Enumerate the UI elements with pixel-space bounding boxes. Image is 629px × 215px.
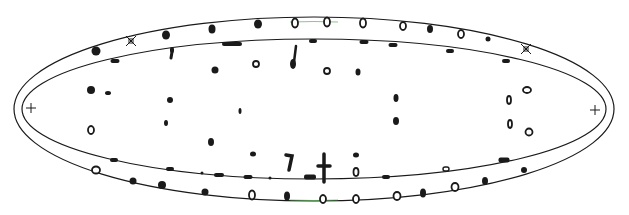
blob-marker xyxy=(508,120,512,128)
dot-marker xyxy=(92,167,100,174)
dot-marker xyxy=(202,189,209,196)
dot-marker xyxy=(486,37,491,42)
blob-marker xyxy=(164,120,168,126)
dash-marker xyxy=(443,167,449,171)
inner-ellipse xyxy=(22,39,606,179)
dash-marker xyxy=(111,59,120,63)
cross-icon xyxy=(521,44,531,54)
plus-icon xyxy=(26,103,36,113)
dot-marker xyxy=(254,20,262,29)
blob-marker xyxy=(250,152,256,157)
blob-marker xyxy=(167,97,173,103)
blob-marker xyxy=(354,168,359,176)
dash-marker xyxy=(201,172,204,175)
blob-marker xyxy=(212,67,219,74)
blob-marker xyxy=(393,117,399,125)
blob-marker xyxy=(239,108,242,114)
blob-marker xyxy=(356,69,361,76)
blob-marker xyxy=(253,61,259,67)
dash-marker xyxy=(502,59,510,63)
dot-marker xyxy=(482,177,488,185)
dash-marker xyxy=(222,42,242,46)
dot-marker xyxy=(360,19,366,28)
blob-marker xyxy=(208,138,214,146)
dash-marker xyxy=(389,43,398,47)
blob-marker xyxy=(353,153,359,158)
dash-marker xyxy=(446,49,454,53)
inner-ellipse-markers xyxy=(110,39,510,180)
dash-marker xyxy=(244,175,253,179)
ink-stroke xyxy=(318,154,330,182)
outer-ellipse xyxy=(14,17,614,201)
dot-marker xyxy=(209,25,216,34)
dash-marker xyxy=(499,158,510,163)
cross-icon xyxy=(126,36,136,46)
dot-marker xyxy=(420,189,426,198)
plus-icon xyxy=(590,105,600,115)
dot-marker xyxy=(162,31,170,40)
blob-marker xyxy=(324,68,330,74)
dash-marker xyxy=(110,158,118,162)
blob-marker xyxy=(394,94,399,102)
dot-marker xyxy=(400,22,406,30)
dot-marker xyxy=(427,25,433,33)
blob-marker xyxy=(88,126,94,134)
dot-marker xyxy=(521,167,527,173)
dash-marker xyxy=(214,173,224,177)
blob-marker xyxy=(87,86,95,94)
dash-marker xyxy=(382,175,390,179)
dash-marker xyxy=(269,177,272,180)
blob-marker xyxy=(105,91,111,95)
ellipse-diagram xyxy=(0,0,629,215)
dot-marker xyxy=(353,195,359,203)
plus-markers xyxy=(26,103,600,115)
dot-marker xyxy=(324,18,330,27)
dot-marker xyxy=(92,47,101,56)
dash-marker xyxy=(170,47,174,53)
blob-marker xyxy=(526,129,533,136)
dot-marker xyxy=(158,181,166,189)
dash-marker xyxy=(309,39,317,43)
dash-marker xyxy=(360,40,369,44)
dot-marker xyxy=(458,30,464,38)
dot-marker xyxy=(394,192,401,200)
orbit-ellipses xyxy=(14,17,614,201)
interior-markers xyxy=(87,59,533,176)
blob-marker xyxy=(523,87,531,93)
ink-stroke xyxy=(286,155,292,170)
dot-marker xyxy=(320,195,326,203)
accent-segment xyxy=(290,200,338,201)
dot-marker xyxy=(249,191,255,200)
blob-marker xyxy=(290,59,296,69)
dot-marker xyxy=(452,183,459,191)
diagram-svg xyxy=(0,0,629,215)
hand-drawn-strokes xyxy=(171,46,330,182)
dot-marker xyxy=(130,178,137,185)
dash-marker xyxy=(166,167,174,171)
dot-marker xyxy=(284,192,290,201)
dot-marker xyxy=(292,19,298,28)
dash-marker xyxy=(304,175,316,180)
blob-marker xyxy=(507,96,511,104)
